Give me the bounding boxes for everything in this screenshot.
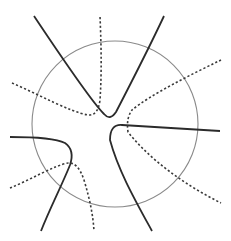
solid-right-curve bbox=[110, 125, 220, 231]
hyperbola-circle-diagram bbox=[0, 0, 231, 241]
dashed-left-curve bbox=[10, 163, 94, 231]
reference-circle bbox=[32, 41, 198, 207]
